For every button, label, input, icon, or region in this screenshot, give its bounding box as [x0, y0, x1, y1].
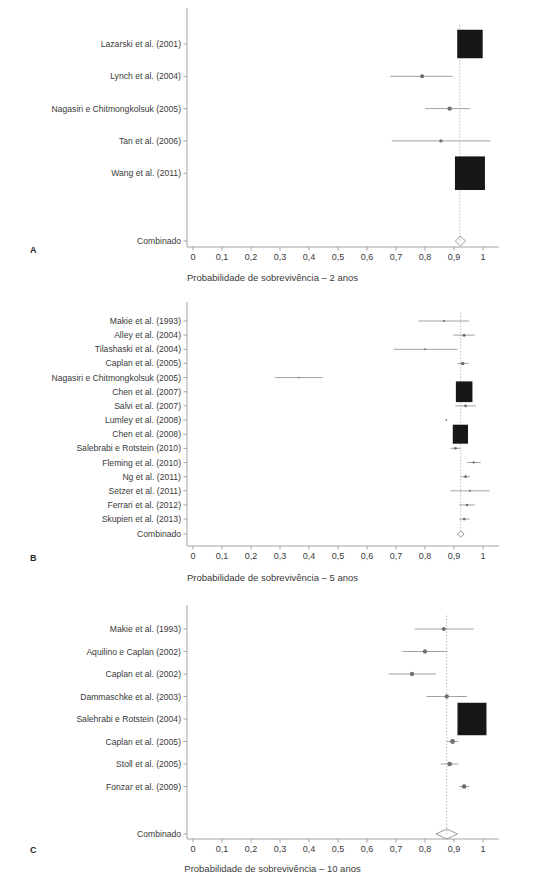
x-axis-tick-label: 0 — [190, 551, 195, 561]
study-label: Ng et al. (2011) — [122, 472, 181, 482]
study-label: Tan et al. (2006) — [119, 136, 181, 146]
x-axis-tick-label: 1 — [480, 844, 485, 854]
x-axis-tick-label: 0,5 — [332, 551, 345, 561]
study-label: Caplan et al. (2002) — [106, 669, 182, 679]
panel-letter-c: C — [30, 845, 37, 855]
effect-size-point — [424, 348, 426, 350]
x-axis-tick-label: 0,2 — [245, 844, 258, 854]
effect-size-point — [463, 334, 466, 337]
forest-plot-svg-c: 00,10,20,30,40,50,60,70,80,91Makie et al… — [0, 595, 545, 857]
x-axis-tick-label: 1 — [480, 551, 485, 561]
effect-size-point — [463, 518, 466, 521]
effect-size-point — [442, 627, 446, 631]
study-label: Fonzar et al. (2009) — [106, 782, 181, 792]
combined-label: Combinado — [137, 829, 181, 839]
x-axis-tick-label: 0,3 — [274, 551, 287, 561]
effect-size-point — [462, 784, 467, 789]
effect-size-point — [447, 106, 451, 110]
x-axis-tick-label: 0,4 — [303, 844, 316, 854]
combined-label: Combinado — [137, 236, 181, 246]
x-axis-tick-label: 0,1 — [216, 844, 229, 854]
effect-size-point — [447, 762, 452, 767]
x-axis-tick-label: 0 — [190, 252, 195, 262]
forest-plot-panel-b: 00,10,20,30,40,50,60,70,80,91Makie et al… — [0, 300, 545, 595]
effect-size-point — [410, 672, 414, 676]
panel-letter-a: A — [30, 245, 37, 255]
effect-size-box — [457, 30, 482, 59]
forest-plot-svg-b: 00,10,20,30,40,50,60,70,80,91Makie et al… — [0, 300, 545, 565]
x-axis-tick-label: 0,9 — [448, 252, 461, 262]
study-label: Nagasiri e Chitmongkolsuk (2005) — [52, 104, 182, 114]
forest-plot-svg-a: 00,10,20,30,40,50,60,70,80,91Lazarski et… — [0, 0, 545, 270]
study-label: Chen et al. (2008) — [112, 429, 181, 439]
x-axis-tick-label: 0,7 — [390, 551, 403, 561]
x-axis-tick-label: 0,5 — [332, 252, 345, 262]
x-axis-tick-label: 1 — [480, 252, 485, 262]
x-axis-tick-label: 0,1 — [216, 551, 229, 561]
x-axis-tick-label: 0,7 — [390, 844, 403, 854]
study-label: Wang et al. (2011) — [111, 168, 181, 178]
effect-size-point — [461, 362, 465, 366]
study-label: Aquilino e Caplan (2002) — [86, 647, 181, 657]
effect-size-point — [420, 74, 424, 78]
effect-size-point — [443, 320, 445, 322]
x-axis-tick-label: 0,2 — [245, 252, 258, 262]
effect-size-point — [445, 419, 446, 420]
study-label: Nagasiri e Chitmongkolsuk (2005) — [52, 373, 182, 383]
study-label: Salehrabi e Rotstein (2004) — [76, 714, 181, 724]
study-label: Fleming et al. (2010) — [102, 458, 181, 468]
x-axis-tick-label: 0,8 — [419, 252, 432, 262]
study-label: Caplan et al. (2005) — [106, 358, 182, 368]
x-axis-tick-label: 0,3 — [274, 252, 287, 262]
study-label: Makie et al. (1993) — [110, 624, 181, 634]
effect-size-point — [464, 475, 467, 478]
study-label: Skupien et al. (2013) — [102, 514, 181, 524]
effect-size-point — [469, 490, 471, 492]
x-axis-tick-label: 0,6 — [361, 844, 374, 854]
x-axis-tick-label: 0,7 — [390, 252, 403, 262]
study-label: Dammaschke et al. (2003) — [80, 692, 181, 702]
x-axis-tick-label: 0,4 — [303, 252, 316, 262]
study-label: Makie et al. (1993) — [110, 316, 181, 326]
study-label: Tilashaski et al. (2004) — [95, 344, 181, 354]
x-axis-tick-label: 0,8 — [419, 551, 432, 561]
x-axis-tick-label: 0,5 — [332, 844, 345, 854]
study-label: Ferrari et al. (2012) — [107, 500, 181, 510]
study-label: Lynch et al. (2004) — [110, 71, 181, 81]
study-label: Lazarski et al. (2001) — [101, 39, 181, 49]
effect-size-point — [473, 461, 475, 463]
x-axis-tick-label: 0 — [190, 844, 195, 854]
effect-size-point — [423, 649, 427, 653]
study-label: Alley et al. (2004) — [114, 330, 181, 340]
effect-size-box — [455, 156, 485, 190]
effect-size-box — [456, 381, 473, 402]
study-label: Stoll et al. (2005) — [116, 759, 181, 769]
study-label: Setzer et al. (2011) — [109, 486, 182, 496]
x-axis-title-b: Probabilidade de sobrevivência – 5 anos — [0, 572, 545, 583]
x-axis-title-a: Probabilidade de sobrevivência – 2 anos — [0, 272, 545, 283]
effect-size-point — [298, 377, 300, 379]
x-axis-tick-label: 0,9 — [448, 844, 461, 854]
x-axis-tick-label: 0,2 — [245, 551, 258, 561]
x-axis-tick-label: 0,8 — [419, 844, 432, 854]
x-axis-tick-label: 0,6 — [361, 252, 374, 262]
forest-plot-panel-a: 00,10,20,30,40,50,60,70,80,91Lazarski et… — [0, 0, 545, 297]
study-label: Chen et al. (2007) — [112, 387, 181, 397]
study-label: Salvi et al. (2007) — [114, 401, 181, 411]
combined-effect-diamond — [455, 236, 465, 246]
effect-size-point — [445, 694, 449, 698]
panel-letter-b: B — [30, 553, 37, 563]
x-axis-title-c: Probabilidade de sobrevivência – 10 anos — [0, 863, 545, 874]
x-axis-tick-label: 0,3 — [274, 844, 287, 854]
x-axis-tick-label: 0,4 — [303, 551, 316, 561]
effect-size-box — [453, 425, 468, 444]
x-axis-tick-label: 0,9 — [448, 551, 461, 561]
study-label: Lumley et al. (2008) — [105, 415, 181, 425]
study-label: Salebrabi e Rotstein (2010) — [76, 443, 181, 453]
x-axis-tick-label: 0,6 — [361, 551, 374, 561]
figure-caption — [4, 881, 541, 892]
forest-plot-panel-c: 00,10,20,30,40,50,60,70,80,91Makie et al… — [0, 595, 545, 892]
effect-size-point — [464, 404, 467, 407]
study-label: Caplan et al. (2005) — [106, 737, 182, 747]
effect-size-point — [450, 739, 455, 744]
